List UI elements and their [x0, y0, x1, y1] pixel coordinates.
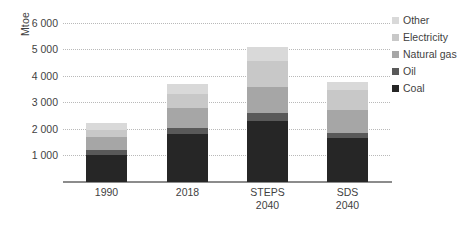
bars-layer — [63, 12, 390, 182]
legend-item-label: Other — [403, 14, 429, 26]
stacked-bar-chart: Mtoe 1 0002 0003 0004 0005 0006 000 1990… — [0, 0, 473, 226]
legend-swatch-icon — [392, 68, 399, 75]
chart-legend: OtherElectricityNatural gasOilCoal — [392, 12, 473, 97]
y-tick-label: 3 000 — [6, 96, 58, 108]
legend-item-oil[interactable]: Oil — [392, 63, 473, 79]
legend-item-coal[interactable]: Coal — [392, 80, 473, 96]
bar-segment-natural-gas[interactable] — [167, 108, 208, 128]
legend-item-other[interactable]: Other — [392, 12, 473, 28]
bar-sds-2040[interactable] — [327, 82, 368, 182]
x-tick-label-line: 2040 — [303, 199, 393, 212]
legend-item-label: Natural gas — [403, 48, 457, 60]
y-tick-label: 6 000 — [6, 17, 58, 29]
y-tick-label: 1 000 — [6, 149, 58, 161]
x-tick-label: 2018 — [143, 186, 233, 199]
y-axis-tick-labels: 1 0002 0003 0004 0005 0006 000 — [0, 12, 58, 182]
y-tick-label: 4 000 — [6, 70, 58, 82]
bar-segment-natural-gas[interactable] — [327, 110, 368, 133]
x-tick-label-line: STEPS — [223, 186, 313, 199]
bar-steps-2040[interactable] — [247, 47, 288, 182]
y-tick-label: 2 000 — [6, 123, 58, 135]
x-tick-label-line: 1990 — [62, 186, 152, 199]
legend-item-electricity[interactable]: Electricity — [392, 29, 473, 45]
bar-segment-coal[interactable] — [86, 155, 127, 182]
legend-item-label: Coal — [403, 82, 425, 94]
x-tick-label-line: SDS — [303, 186, 393, 199]
bar-segment-electricity[interactable] — [247, 61, 288, 87]
bar-segment-coal[interactable] — [247, 121, 288, 182]
bar-segment-coal[interactable] — [327, 138, 368, 182]
bar-1990[interactable] — [86, 123, 127, 182]
x-tick-label: STEPS2040 — [223, 186, 313, 212]
x-tick-label: SDS2040 — [303, 186, 393, 212]
bar-segment-natural-gas[interactable] — [86, 137, 127, 150]
bar-segment-coal[interactable] — [167, 134, 208, 182]
y-tick-label: 5 000 — [6, 43, 58, 55]
bar-segment-natural-gas[interactable] — [247, 87, 288, 113]
bar-segment-other[interactable] — [327, 82, 368, 90]
legend-swatch-icon — [392, 51, 399, 58]
x-tick-label-line: 2040 — [223, 199, 313, 212]
legend-item-natural-gas[interactable]: Natural gas — [392, 46, 473, 62]
x-axis-tick-labels: 19902018STEPS2040SDS2040 — [63, 186, 390, 224]
bar-segment-other[interactable] — [247, 47, 288, 61]
legend-swatch-icon — [392, 17, 399, 24]
bar-segment-electricity[interactable] — [167, 94, 208, 108]
legend-item-label: Electricity — [403, 31, 448, 43]
bar-segment-other[interactable] — [86, 123, 127, 131]
legend-swatch-icon — [392, 34, 399, 41]
bar-2018[interactable] — [167, 84, 208, 182]
bar-segment-electricity[interactable] — [86, 130, 127, 137]
bar-segment-oil[interactable] — [247, 113, 288, 120]
bar-segment-other[interactable] — [167, 84, 208, 94]
x-tick-label-line: 2018 — [143, 186, 233, 199]
bar-segment-electricity[interactable] — [327, 90, 368, 110]
legend-item-label: Oil — [403, 65, 416, 77]
legend-swatch-icon — [392, 85, 399, 92]
x-tick-label: 1990 — [62, 186, 152, 199]
